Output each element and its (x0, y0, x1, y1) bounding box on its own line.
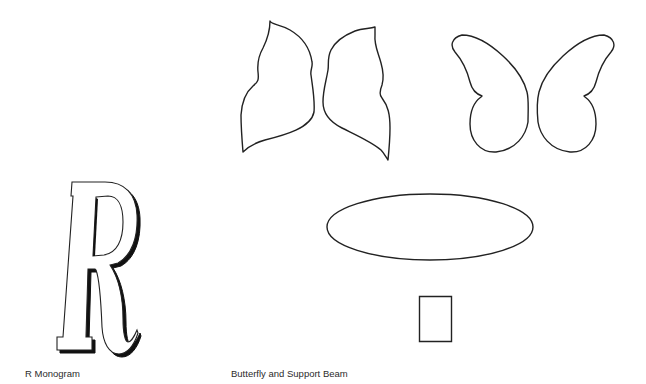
butterfly-right-wing-a (323, 27, 390, 160)
template-canvas (0, 0, 646, 384)
r-monogram (57, 182, 141, 357)
butterfly-left-wing-b (452, 35, 528, 152)
butterfly-wings-rounded (452, 35, 614, 152)
butterfly-right-wing-b (537, 35, 614, 152)
caption-r-monogram: R Monogram (25, 368, 80, 379)
support-beam-ellipse (327, 194, 533, 260)
butterfly-left-wing-a (241, 21, 314, 152)
butterfly-wings-separate (241, 21, 390, 160)
support-block-rectangle (420, 297, 452, 342)
caption-butterfly-support-beam: Butterfly and Support Beam (231, 368, 348, 379)
